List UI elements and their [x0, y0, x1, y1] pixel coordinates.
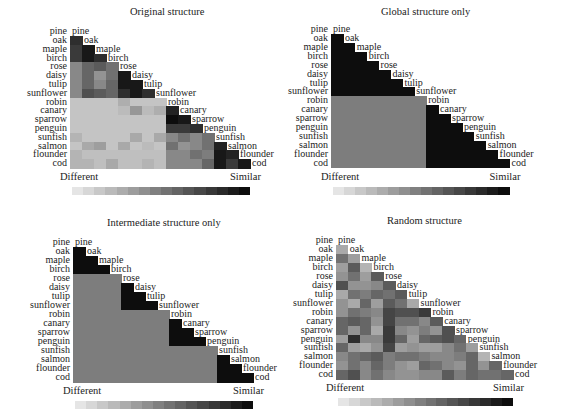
legend-swatch [426, 398, 437, 406]
heatmap-cell [501, 370, 513, 380]
heatmap-cell [348, 370, 360, 380]
heatmap-cell [205, 373, 218, 383]
heatmap-cell [367, 159, 380, 169]
legend-swatch [239, 187, 250, 195]
legend-swatch [333, 187, 344, 195]
heatmap-cell [169, 373, 182, 383]
legend-swatch [344, 187, 355, 195]
row-label: cod [53, 158, 67, 168]
heatmap-cell [478, 370, 490, 380]
heatmap-cell [217, 373, 230, 383]
legend-swatch [217, 187, 228, 195]
legend-colorbar [338, 398, 513, 406]
legend-swatch [432, 187, 443, 195]
heatmap-cell [73, 373, 86, 383]
legend-swatch [382, 398, 393, 406]
legend-swatch [86, 401, 97, 409]
heatmap-cell [430, 370, 442, 380]
heatmap-cell [145, 373, 158, 383]
heatmap-cell [178, 159, 191, 168]
legend-swatch [220, 401, 231, 409]
legend-swatch [97, 401, 108, 409]
legend-swatch [338, 398, 349, 406]
heatmap-cell [442, 370, 454, 380]
heatmap-cell [130, 159, 143, 168]
legend-swatch [377, 187, 388, 195]
legend-swatch [360, 398, 371, 406]
legend-swatch [443, 187, 454, 195]
legend-swatch [454, 187, 465, 195]
heatmap-cell [118, 159, 131, 168]
legend-swatch [447, 398, 458, 406]
legend-different-label: Different [321, 171, 359, 182]
heatmap-cell [109, 373, 122, 383]
heatmap-cell [419, 370, 431, 380]
diagonal-label: cod [255, 372, 269, 382]
legend-colorbar [333, 187, 510, 195]
heatmap-cell [157, 373, 170, 383]
legend-swatch [161, 187, 172, 195]
heatmap-cell [360, 370, 372, 380]
heatmap-cell [414, 159, 427, 169]
heatmap-cell [85, 373, 98, 383]
legend-swatch [128, 187, 139, 195]
diagonal-label: cod [515, 369, 529, 379]
legend-swatch [172, 187, 183, 195]
heatmap-cell [229, 373, 242, 383]
heatmap-cell [343, 159, 356, 169]
legend-swatch [498, 187, 509, 195]
legend-swatch [194, 187, 205, 195]
diagonal-label: cod [512, 158, 526, 168]
row-label: cod [56, 372, 70, 382]
legend-similar-label: Similar [490, 171, 521, 182]
heatmap-grid [331, 34, 510, 168]
legend-swatch [366, 187, 377, 195]
heatmap-cell [454, 370, 466, 380]
legend-swatch [164, 401, 175, 409]
legend-swatch [75, 401, 86, 409]
heatmap-cell [407, 370, 419, 380]
heatmap-cell [241, 373, 254, 383]
heatmap-grid [336, 245, 513, 379]
legend-swatch [421, 187, 432, 195]
heatmap-cell [106, 159, 119, 168]
heatmap-cell [166, 159, 179, 168]
legend-different-label: Different [63, 385, 101, 396]
legend-swatch [228, 187, 239, 195]
legend-different-label: Different [326, 382, 364, 393]
legend-similar-label: Similar [493, 382, 524, 393]
legend-swatch [72, 187, 83, 195]
heatmap-cell [486, 159, 499, 169]
heatmap-cell [193, 373, 206, 383]
legend-colorbar [72, 187, 250, 195]
legend-swatch [371, 398, 382, 406]
diagonal-label: cod [252, 158, 266, 168]
legend-swatch [206, 187, 217, 195]
heatmap-cell [202, 159, 215, 168]
heatmap-cell [154, 159, 167, 168]
heatmap-cell [142, 159, 155, 168]
legend-swatch [139, 187, 150, 195]
heatmap-cell [82, 159, 95, 168]
heatmap-cell [466, 370, 478, 380]
legend-swatch [410, 187, 421, 195]
heatmap-cell [498, 159, 511, 169]
legend-swatch [186, 401, 197, 409]
legend-swatch [209, 401, 220, 409]
legend-swatch [94, 187, 105, 195]
legend-similar-label: Similar [233, 385, 264, 396]
legend-swatch [183, 187, 194, 195]
heatmap-cell [395, 370, 407, 380]
legend-swatch [231, 401, 242, 409]
heatmap-cell [97, 373, 110, 383]
heatmap-cell [133, 373, 146, 383]
heatmap-cell [190, 159, 203, 168]
legend-swatch [131, 401, 142, 409]
panel-title: Intermediate structure only [107, 217, 221, 228]
legend-similar-label: Similar [230, 171, 261, 182]
heatmap-cell [331, 159, 344, 169]
legend-swatch [436, 398, 447, 406]
legend-swatch [108, 401, 119, 409]
legend-swatch [458, 398, 469, 406]
legend-swatch [150, 187, 161, 195]
